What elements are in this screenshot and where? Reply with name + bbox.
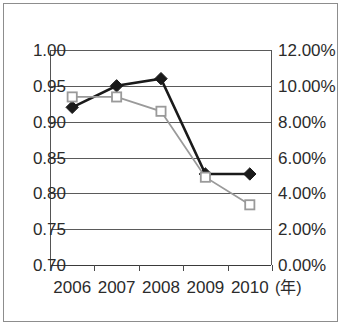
chart-figure: 0.700.750.800.850.900.951.00 0.00%2.00%4… xyxy=(0,0,348,328)
x-axis-tick-label: 2009 xyxy=(182,279,228,296)
x-axis-unit-label: (年) xyxy=(275,280,302,296)
x-axis-tick-label: 2010 xyxy=(227,279,273,296)
right-axis-tick-label: 2.00% xyxy=(278,221,326,238)
left-axis-tick-label: 0.90 xyxy=(33,114,66,131)
plot-area xyxy=(50,50,272,265)
gridline xyxy=(51,86,271,87)
left-axis-tick-label: 1.00 xyxy=(33,42,66,59)
left-axis-tick-label: 0.85 xyxy=(33,150,66,167)
gridline xyxy=(51,229,271,230)
x-axis-tick-mark xyxy=(50,265,51,271)
right-axis-tick-label: 8.00% xyxy=(278,114,326,131)
x-axis-tick-mark xyxy=(183,265,184,271)
right-axis-tick-label: 12.00% xyxy=(278,42,336,59)
right-axis-tick-label: 4.00% xyxy=(278,185,326,202)
x-axis-tick-label: 2006 xyxy=(49,279,95,296)
right-axis-tick-label: 6.00% xyxy=(278,150,326,167)
gridline xyxy=(51,158,271,159)
x-axis-tick-mark xyxy=(272,265,273,271)
x-axis-tick-mark xyxy=(139,265,140,271)
gridline xyxy=(51,50,271,51)
right-axis-tick-label: 10.00% xyxy=(278,78,336,95)
gridline xyxy=(51,193,271,194)
x-axis-tick-label: 2007 xyxy=(94,279,140,296)
gridline xyxy=(51,122,271,123)
x-axis-tick-mark xyxy=(228,265,229,271)
left-axis-tick-label: 0.80 xyxy=(33,185,66,202)
right-axis-tick-label: 0.00% xyxy=(278,257,326,274)
left-axis-tick-label: 0.95 xyxy=(33,78,66,95)
gridline xyxy=(51,265,271,266)
left-axis-tick-label: 0.75 xyxy=(33,221,66,238)
x-axis-tick-label: 2008 xyxy=(138,279,184,296)
x-axis-tick-mark xyxy=(94,265,95,271)
